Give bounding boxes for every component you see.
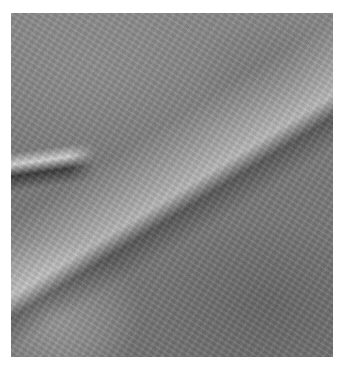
terrain-image: [11, 13, 333, 357]
surface-texture: [11, 13, 333, 357]
